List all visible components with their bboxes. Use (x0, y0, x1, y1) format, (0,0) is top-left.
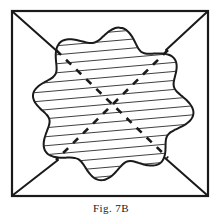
figure-caption: Fig. 7B (0, 202, 222, 215)
figure-drawing (0, 0, 222, 215)
figure-container: Fig. 7B (0, 0, 222, 215)
